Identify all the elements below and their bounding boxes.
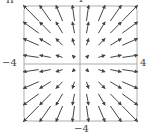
vector-arrow — [72, 39, 74, 46]
vector-arrow — [23, 70, 38, 72]
vector-arrow — [110, 106, 121, 122]
vector-arrow — [40, 82, 51, 89]
vector-arrow — [56, 82, 63, 89]
vector-arrow — [86, 55, 88, 57]
vector-arrows — [23, 5, 137, 121]
vector-arrow — [122, 22, 137, 33]
vector-arrow — [56, 94, 63, 105]
vector-arrow — [122, 39, 137, 46]
vector-arrow — [98, 82, 105, 89]
vector-arrow — [72, 22, 74, 33]
vector-arrow — [110, 39, 121, 46]
vector-arrow — [98, 94, 105, 105]
vector-arrow — [23, 55, 38, 57]
vector-arrow — [56, 5, 63, 21]
vector-arrow — [40, 94, 51, 105]
vector-arrow — [23, 39, 38, 46]
vector-arrow — [23, 5, 38, 21]
vector-arrow — [86, 70, 88, 72]
vector-arrow — [40, 55, 51, 57]
vector-arrow — [56, 22, 63, 33]
vector-arrow — [110, 82, 121, 89]
vector-arrow — [23, 82, 38, 89]
vector-arrow — [122, 106, 137, 122]
vector-arrow — [110, 94, 121, 105]
vector-arrow — [56, 70, 63, 72]
vector-arrow — [23, 106, 38, 122]
vector-arrow — [98, 70, 105, 72]
vector-arrow — [23, 94, 38, 105]
vector-arrow — [98, 106, 105, 122]
vector-field-plot — [0, 0, 148, 136]
vector-arrow — [98, 22, 105, 33]
vector-arrow — [86, 106, 88, 122]
vector-arrow — [98, 55, 105, 57]
vector-arrow — [122, 82, 137, 89]
vector-arrow — [40, 106, 51, 122]
vector-arrow — [72, 55, 74, 57]
vector-arrow — [72, 94, 74, 105]
vector-arrow — [56, 39, 63, 46]
vector-arrow — [56, 106, 63, 122]
vector-arrow — [23, 22, 38, 33]
vector-arrow — [110, 22, 121, 33]
vector-arrow — [56, 55, 63, 57]
vector-arrow — [122, 5, 137, 21]
vector-arrow — [86, 22, 88, 33]
vector-arrow — [110, 55, 121, 57]
vector-arrow — [40, 22, 51, 33]
vector-arrow — [122, 94, 137, 105]
vector-arrow — [86, 39, 88, 46]
vector-arrow — [110, 70, 121, 72]
vector-arrow — [40, 39, 51, 46]
vector-arrow — [86, 94, 88, 105]
vector-arrow — [98, 39, 105, 46]
vector-arrow — [40, 70, 51, 72]
vector-arrow — [110, 5, 121, 21]
vector-arrow — [72, 82, 74, 89]
vector-arrow — [86, 82, 88, 89]
vector-arrow — [86, 5, 88, 21]
vector-arrow — [122, 55, 137, 57]
vector-arrow — [98, 5, 105, 21]
vector-arrow — [40, 5, 51, 21]
vector-arrow — [72, 5, 74, 21]
vector-arrow — [122, 70, 137, 72]
vector-arrow — [72, 70, 74, 72]
vector-arrow — [72, 106, 74, 122]
